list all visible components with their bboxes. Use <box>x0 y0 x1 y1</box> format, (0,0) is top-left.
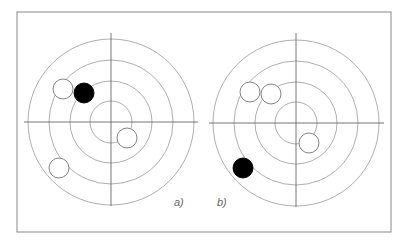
panel-b <box>209 33 384 207</box>
open-marker <box>49 158 69 178</box>
filled-marker <box>233 158 253 178</box>
open-marker <box>299 133 319 153</box>
open-marker <box>53 79 73 99</box>
filled-marker <box>74 83 94 103</box>
concentric-rings-figure: a) b) <box>0 0 408 244</box>
panel-a <box>24 33 198 206</box>
open-marker <box>240 82 260 102</box>
open-marker <box>117 128 137 148</box>
figure-canvas: a) b) <box>0 0 408 244</box>
panel-b-label: b) <box>217 196 227 208</box>
panel-a-label: a) <box>174 196 184 208</box>
open-marker <box>261 84 281 104</box>
